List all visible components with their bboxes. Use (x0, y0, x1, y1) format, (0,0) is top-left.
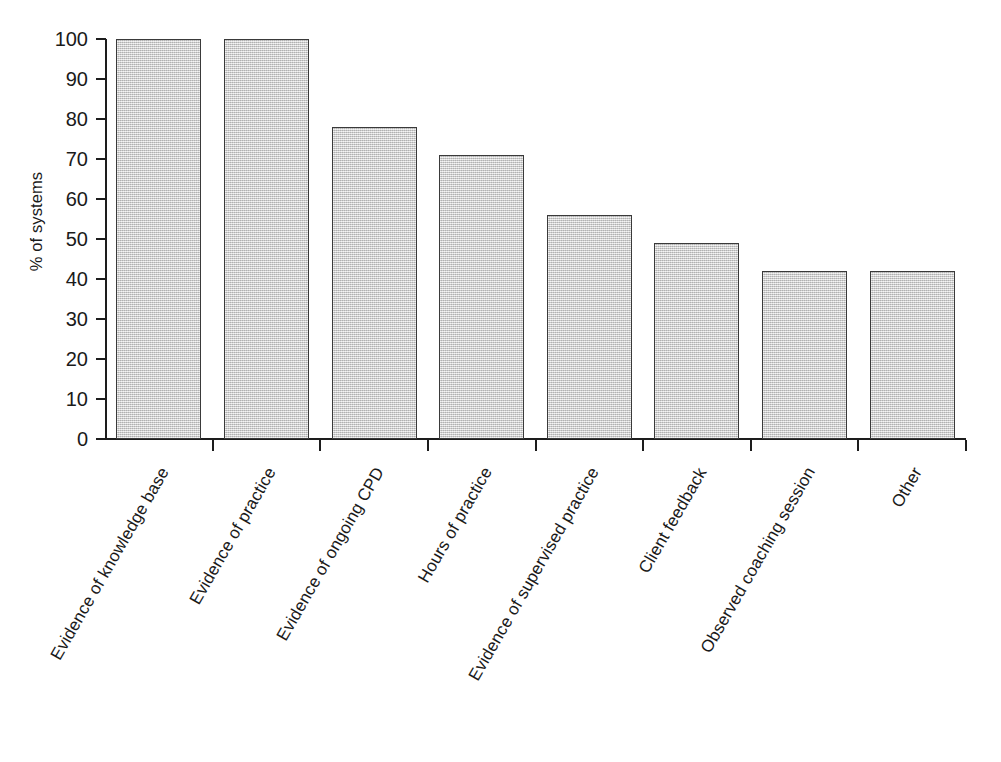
x-category-label: Evidence of ongoing CPD (273, 464, 389, 645)
y-tick-label-90: 90 (42, 69, 88, 89)
y-tick-label-100: 100 (42, 29, 88, 49)
y-tick-label-80: 80 (42, 109, 88, 129)
bar (654, 243, 739, 439)
y-tick-label-30: 30 (42, 309, 88, 329)
x-category-label: Evidence of practice (186, 464, 281, 608)
x-tick-mark-6 (750, 440, 752, 451)
x-category-label: Other (888, 464, 927, 511)
bar (332, 127, 417, 439)
x-tick-mark-4 (535, 440, 537, 451)
bar (116, 39, 201, 439)
x-tick-mark-1 (212, 440, 214, 451)
x-tick-mark-5 (642, 440, 644, 451)
y-tick-label-70: 70 (42, 149, 88, 169)
y-tick-label-20: 20 (42, 349, 88, 369)
bar (547, 215, 632, 439)
y-tick-label-40: 40 (42, 269, 88, 289)
x-category-label: Evidence of supervised practice (465, 464, 604, 685)
bar (439, 155, 524, 439)
y-tick-label-50: 50 (42, 229, 88, 249)
plot-area (105, 39, 966, 439)
bar-chart: % of systems 1009080706050403020100 Evid… (0, 0, 1001, 762)
x-tick-mark-2 (319, 440, 321, 451)
bar (870, 271, 955, 439)
x-category-label: Hours of practice (414, 464, 496, 587)
y-axis-tick-labels: 1009080706050403020100 (42, 0, 88, 460)
x-tick-mark-8 (965, 440, 967, 451)
x-tick-mark-3 (427, 440, 429, 451)
bar (762, 271, 847, 439)
x-category-label: Evidence of knowledge base (47, 464, 174, 664)
y-tick-label-10: 10 (42, 389, 88, 409)
y-tick-label-0: 0 (42, 429, 88, 449)
x-category-label: Observed coaching session (696, 464, 819, 657)
bar (224, 39, 309, 439)
y-tick-label-60: 60 (42, 189, 88, 209)
x-tick-mark-7 (857, 440, 859, 451)
x-category-label: Client feedback (635, 464, 712, 577)
